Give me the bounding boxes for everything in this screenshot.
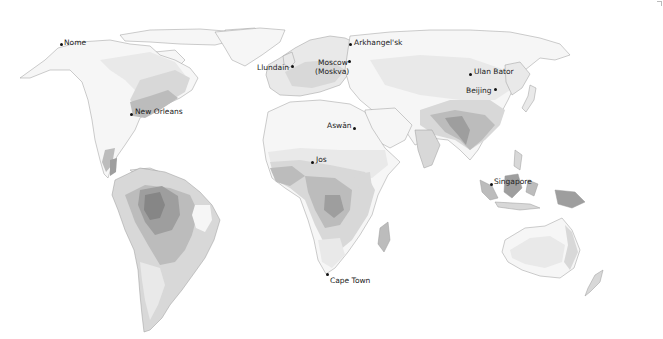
- japan: [522, 85, 536, 112]
- city-dot-ulan-bator: [469, 73, 472, 76]
- australia: [502, 218, 580, 278]
- city-label-aswan: Aswān: [327, 121, 352, 130]
- city-dot-llundain: [291, 65, 294, 68]
- city-label-jos: Jos: [316, 155, 327, 164]
- city-dot-cape-town: [326, 273, 329, 276]
- city-label-cape-town: Cape Town: [330, 276, 370, 285]
- city-dot-jos: [311, 161, 314, 164]
- city-label-moskva: (Moskva): [315, 67, 349, 76]
- madagascar: [378, 222, 390, 252]
- city-label-singapore: Singapore: [494, 177, 532, 186]
- city-label-ulan-bator: Ulan Bator: [474, 67, 514, 76]
- south-america: [112, 168, 220, 332]
- city-dot-singapore: [490, 183, 493, 186]
- city-label-new-orleans: New Orleans: [135, 107, 183, 116]
- city-dot-aswan: [353, 127, 356, 130]
- city-label-moscow: Moscow: [318, 58, 348, 67]
- city-label-llundain: Llundain: [257, 63, 289, 72]
- city-label-beijing: Beijing: [466, 86, 492, 95]
- city-dot-new-orleans: [130, 113, 133, 116]
- city-label-arkhangelsk: Arkhangel'sk: [354, 38, 402, 47]
- city-dot-beijing: [494, 88, 497, 91]
- city-dot-arkhangelsk: [349, 43, 352, 46]
- corner-mark: [657, 1, 662, 6]
- city-label-nome: Nome: [64, 38, 86, 47]
- new-zealand: [585, 270, 603, 296]
- city-dot-moscow: [348, 60, 351, 63]
- world-map: [0, 0, 663, 339]
- greenland: [215, 28, 285, 66]
- city-dot-nome: [60, 43, 63, 46]
